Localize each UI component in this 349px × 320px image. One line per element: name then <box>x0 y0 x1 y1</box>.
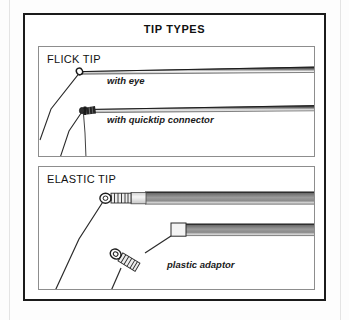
panel-label-elastic-tip: ELASTIC TIP <box>47 173 116 185</box>
page-edge-line-left <box>9 0 10 320</box>
ribbed-connector-upper-icon <box>100 193 131 203</box>
elastic-line-lower <box>111 268 121 290</box>
elastic-line-adaptor <box>145 236 171 253</box>
panel-elastic-tip: ELASTIC TIP <box>38 166 315 290</box>
elastic-tip-drawing <box>39 167 315 290</box>
connector-sleeve-upper <box>131 192 146 203</box>
thick-rod-lower <box>185 224 315 236</box>
callout-with-eye: with eye <box>107 75 145 86</box>
quicktip-connector-icon <box>79 106 96 115</box>
callout-with-quicktip-connector: with quicktip connector <box>107 114 214 125</box>
page-edge-line-right <box>340 0 341 320</box>
thick-rod-upper <box>145 192 315 204</box>
callout-plastic-adaptor: plastic adaptor <box>167 259 235 270</box>
elastic-line-from-quicktip <box>60 113 81 157</box>
elastic-line-upper <box>55 203 103 291</box>
figure-title: TIP TYPES <box>25 23 324 35</box>
elastic-line-from-eye <box>40 74 79 140</box>
eye-ring-icon <box>75 67 83 76</box>
plastic-adaptor-block <box>171 223 186 236</box>
panel-flick-tip: FLICK TIP <box>38 46 315 157</box>
ribbed-connector-lower-icon <box>108 247 140 271</box>
panel-label-flick-tip: FLICK TIP <box>47 53 101 65</box>
figure-root: TIP TYPES FLICK TIP <box>0 0 349 320</box>
elastic-line-secondary <box>84 114 87 157</box>
figure-outer-frame: TIP TYPES FLICK TIP <box>23 13 326 301</box>
